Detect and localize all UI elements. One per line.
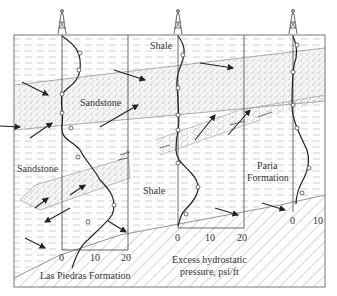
tick-w3-0: 0	[290, 215, 295, 226]
derrick-icon-3	[289, 10, 297, 35]
derrick-icon-1	[58, 10, 66, 35]
label-paria-2: Formation	[247, 172, 289, 183]
axis-title-2: pressure, psi/ft	[180, 266, 239, 277]
label-paria-1: Paria	[257, 160, 278, 171]
label-shale-middle: Shale	[143, 185, 165, 196]
axis-title-1: Excess hydrostatic	[172, 254, 247, 265]
label-sandstone-upper: Sandstone	[80, 97, 121, 108]
label-las-piedras: Las Piedras Formation	[40, 270, 131, 281]
tick-w1-0: 0	[59, 252, 64, 263]
derrick-icon-2	[174, 10, 182, 35]
tick-w2-0: 0	[175, 232, 180, 243]
tick-w2-10: 10	[205, 232, 215, 243]
tick-w3-10: 10	[313, 215, 323, 226]
tick-w1-10: 10	[90, 252, 100, 263]
tick-w1-20: 20	[121, 252, 131, 263]
label-shale-top: Shale	[150, 40, 172, 51]
tick-w2-20: 20	[237, 232, 247, 243]
label-sandstone-lower: Sandstone	[17, 163, 58, 174]
